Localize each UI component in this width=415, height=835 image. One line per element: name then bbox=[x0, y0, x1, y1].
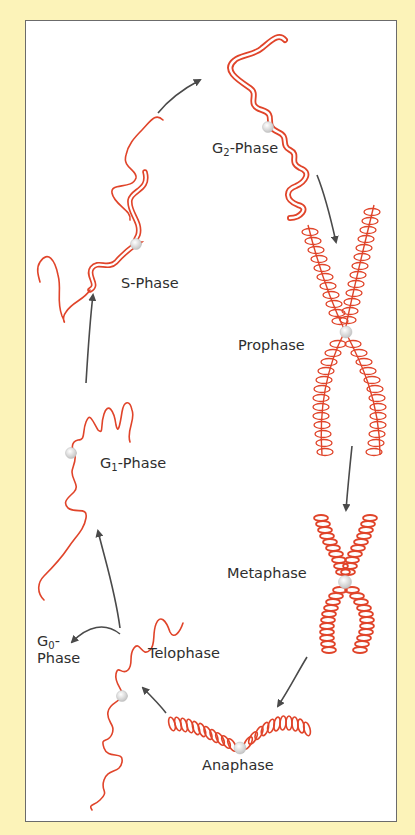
arrow-g2-to-prophase bbox=[317, 175, 336, 242]
anaphase-chromosome bbox=[167, 716, 311, 754]
arrow-s-to-g2 bbox=[158, 80, 200, 113]
arrow-telophase-to-g1 bbox=[98, 531, 120, 628]
cell-cycle-diagram bbox=[0, 0, 415, 835]
label-g1-phase: G1-Phase bbox=[100, 456, 166, 473]
label-g0-phase: G0- Phase bbox=[37, 634, 80, 667]
metaphase-chromosome bbox=[314, 515, 377, 653]
arrow-metaphase-to-anaphase bbox=[278, 657, 307, 706]
arrow-anaphase-to-telophase bbox=[143, 688, 166, 713]
label-anaphase: Anaphase bbox=[202, 758, 274, 774]
label-g2-phase: G2-Phase bbox=[212, 141, 278, 158]
label-s-phase: S-Phase bbox=[121, 276, 179, 292]
cycle-arrows bbox=[72, 80, 352, 713]
arrow-g1-to-s bbox=[86, 295, 93, 383]
label-metaphase: Metaphase bbox=[227, 566, 307, 582]
prophase-coils bbox=[302, 209, 386, 456]
label-telophase: Telophase bbox=[148, 646, 220, 662]
g2-chromosome bbox=[230, 37, 306, 218]
arrow-prophase-to-metaphase bbox=[346, 446, 352, 510]
label-prophase: Prophase bbox=[238, 338, 305, 354]
g1-chromosome bbox=[39, 403, 133, 600]
